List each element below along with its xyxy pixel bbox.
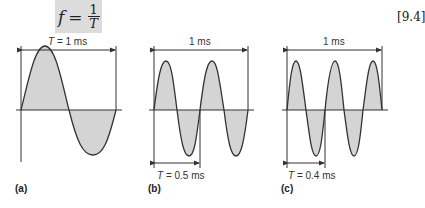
panel-a-period-label: T = 1 ms <box>48 36 87 47</box>
period-value: = 0.5 ms <box>163 170 204 181</box>
panel-c-label: (c) <box>281 183 293 194</box>
panel-c-period-label: T = 0.4 ms <box>288 170 336 181</box>
panel-b-label: (b) <box>148 183 161 194</box>
panel-c-span-label: 1 ms <box>323 36 345 47</box>
panel-a-graph <box>16 46 122 162</box>
panel-b-graph <box>149 46 254 168</box>
panel-b-period-label: T = 0.5 ms <box>157 170 205 181</box>
period-value: = 1 ms <box>54 36 87 47</box>
panel-a-label: (a) <box>15 183 27 194</box>
panel-c-graph <box>282 46 388 168</box>
panel-b-span-label: 1 ms <box>189 36 211 47</box>
period-value: = 0.4 ms <box>294 170 335 181</box>
